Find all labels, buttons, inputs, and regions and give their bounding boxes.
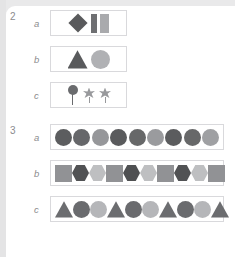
question-row: c <box>0 194 229 230</box>
circle-shape-icon <box>73 201 90 218</box>
hexagon-shape-icon <box>72 165 89 182</box>
question-row: a <box>0 8 229 44</box>
question-row: c <box>0 80 229 116</box>
triangle-shape-icon <box>55 201 73 218</box>
circle-shape-icon <box>90 201 107 218</box>
row-letter: b <box>34 168 39 179</box>
circle-shape-icon <box>202 129 219 146</box>
hexagon-shape-icon <box>174 165 191 182</box>
row-letter: a <box>34 132 39 143</box>
worksheet-content: 2 a b c 3 a b c <box>0 0 229 251</box>
circle-shape-icon <box>92 129 109 146</box>
triangle-shape-icon <box>211 201 229 218</box>
pin-shape-icon <box>66 85 80 106</box>
pattern-box-3c[interactable] <box>50 196 224 222</box>
hexagon-shape-icon <box>140 165 157 182</box>
rectangle-wide-shape-icon <box>100 14 109 33</box>
triangle-shape-icon <box>159 201 177 218</box>
circle-shape-icon <box>110 129 127 146</box>
square-shape-icon <box>208 165 225 182</box>
star-stem-icon <box>89 97 90 103</box>
diamond-shape-icon <box>68 13 88 33</box>
circle-shape-icon <box>177 201 194 218</box>
circle-shape-icon <box>147 129 164 146</box>
circle-shape-icon <box>91 50 110 69</box>
hexagon-shape-icon <box>123 165 140 182</box>
circle-shape-icon <box>129 129 146 146</box>
pin-stem-icon <box>72 93 74 105</box>
star-shape-icon <box>83 88 96 103</box>
row-letter: c <box>34 204 39 215</box>
rectangle-narrow-shape-icon <box>91 14 97 33</box>
row-letter: c <box>34 90 39 101</box>
square-shape-icon <box>55 165 72 182</box>
row-letter: b <box>34 54 39 65</box>
pattern-box-3a[interactable] <box>50 124 224 150</box>
star-shape-icon <box>99 88 112 103</box>
question-group-3: 3 a b c <box>0 122 229 230</box>
circle-shape-icon <box>184 129 201 146</box>
triangle-shape-icon <box>68 50 88 69</box>
pattern-box-2b[interactable] <box>50 46 127 72</box>
question-row: a <box>0 122 229 158</box>
circle-shape-icon <box>194 201 211 218</box>
question-row: b <box>0 44 229 80</box>
circle-shape-icon <box>142 201 159 218</box>
circle-shape-icon <box>73 129 90 146</box>
circle-shape-icon <box>55 129 72 146</box>
pattern-box-3b[interactable] <box>50 160 224 186</box>
pattern-box-2c[interactable] <box>50 82 127 108</box>
question-row: b <box>0 158 229 194</box>
hexagon-shape-icon <box>191 165 208 182</box>
square-shape-icon <box>106 165 123 182</box>
row-letter: a <box>34 18 39 29</box>
triangle-shape-icon <box>107 201 125 218</box>
hexagon-shape-icon <box>89 165 106 182</box>
question-group-2: 2 a b c <box>0 8 229 116</box>
pattern-box-2a[interactable] <box>50 10 127 36</box>
star-stem-icon <box>105 97 106 103</box>
circle-shape-icon <box>125 201 142 218</box>
square-shape-icon <box>157 165 174 182</box>
circle-shape-icon <box>165 129 182 146</box>
